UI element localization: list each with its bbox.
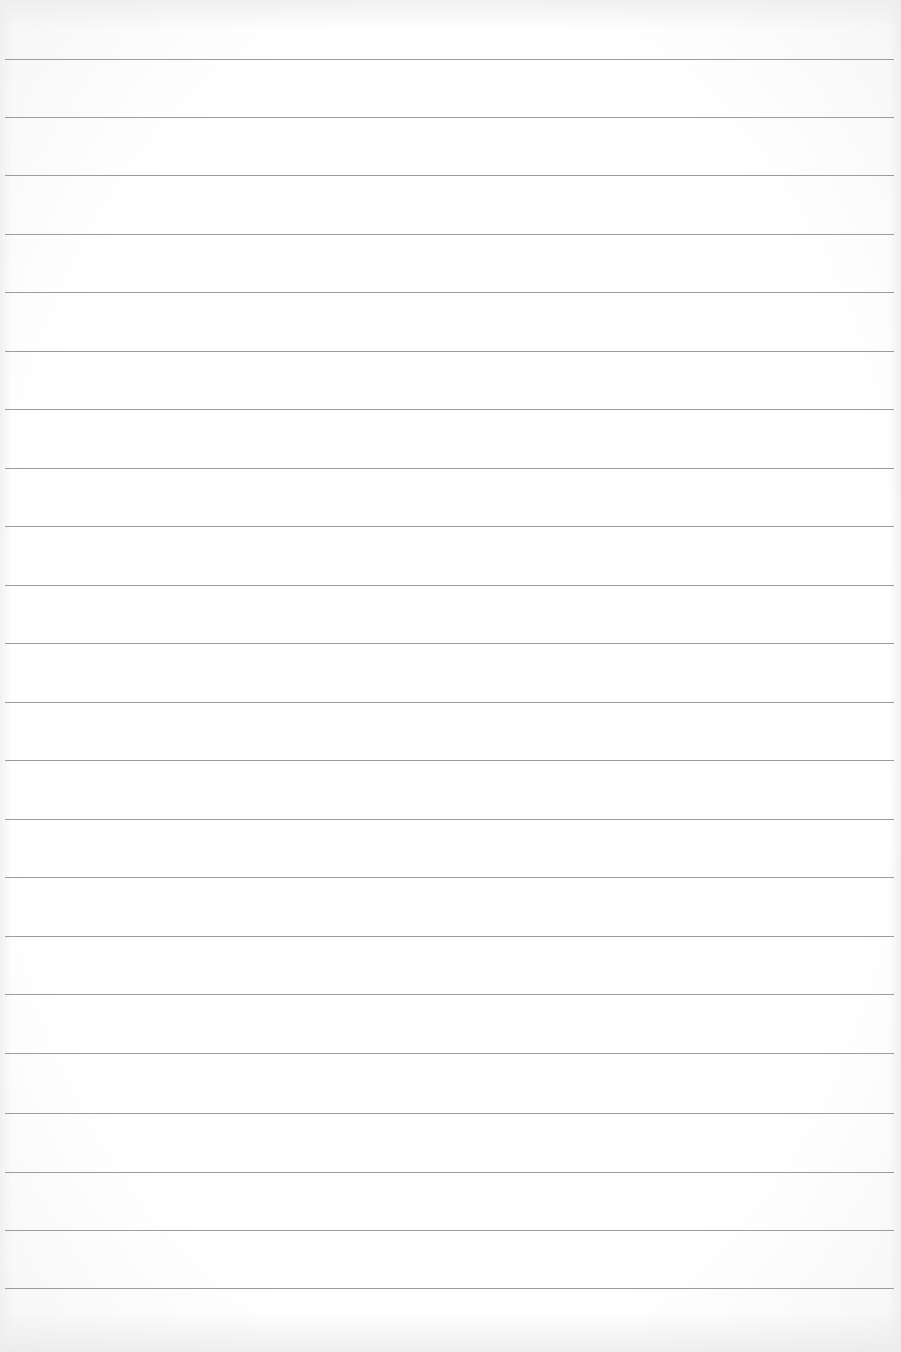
ruled-line: [5, 585, 894, 586]
paper-edge-shadow-bottom: [0, 1312, 901, 1352]
paper-edge-shadow-top: [0, 0, 901, 30]
ruled-line: [5, 702, 894, 703]
paper-edge-shadow-left: [0, 0, 12, 1352]
ruled-line: [5, 1288, 894, 1289]
ruled-line: [5, 1053, 894, 1054]
ruled-line: [5, 59, 894, 60]
ruled-line: [5, 409, 894, 410]
ruled-line: [5, 117, 894, 118]
ruled-line: [5, 994, 894, 995]
ruled-line: [5, 1172, 894, 1173]
paper-edge-shadow-right: [889, 0, 901, 1352]
ruled-line: [5, 526, 894, 527]
ruled-line: [5, 760, 894, 761]
ruled-line: [5, 351, 894, 352]
ruled-line: [5, 936, 894, 937]
ruled-line: [5, 643, 894, 644]
ruled-line: [5, 175, 894, 176]
ruled-line: [5, 1230, 894, 1231]
lined-paper-sheet: [0, 0, 901, 1352]
ruled-line: [5, 292, 894, 293]
ruled-line: [5, 234, 894, 235]
ruled-line: [5, 468, 894, 469]
ruled-line: [5, 877, 894, 878]
ruled-line: [5, 819, 894, 820]
ruled-line: [5, 1113, 894, 1114]
